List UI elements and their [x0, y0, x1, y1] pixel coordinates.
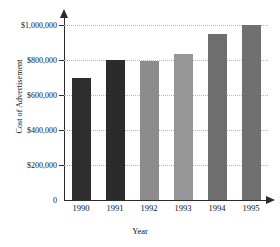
y-axis-tick-label: $1,000,000	[21, 21, 57, 30]
bar-1991	[106, 60, 125, 200]
y-axis-title: Cost of Advertisement	[15, 22, 24, 172]
y-axis-tick	[59, 95, 64, 96]
x-axis-tick-label: 1992	[132, 203, 166, 213]
x-axis-tick-label: 1993	[166, 203, 200, 213]
y-axis-tick-label: $400,000	[27, 126, 57, 135]
gridline	[64, 25, 268, 26]
gridline	[64, 165, 268, 166]
x-axis-title: Year	[0, 226, 280, 236]
bar-1992	[140, 61, 159, 200]
plot-area: 0$200,000$400,000$600,000$800,000$1,000,…	[64, 25, 268, 200]
y-axis-tick-label: $600,000	[27, 91, 57, 100]
gridline	[64, 130, 268, 131]
y-axis-tick	[59, 165, 64, 166]
y-axis-tick-label: $800,000	[27, 56, 57, 65]
x-axis-tick-label: 1995	[234, 203, 268, 213]
bar-chart: Cost of Advertisement 0$200,000$400,000$…	[0, 0, 280, 247]
x-axis-tick-label: 1990	[64, 203, 98, 213]
y-axis-tick-label: $200,000	[27, 161, 57, 170]
bar-1995	[242, 25, 261, 200]
gridline	[64, 200, 268, 201]
x-axis-tick-label: 1994	[200, 203, 234, 213]
bar-1990	[72, 78, 91, 201]
y-axis-tick	[59, 25, 64, 26]
bar-1994	[208, 34, 227, 200]
bar-1993	[174, 54, 193, 200]
y-axis-tick	[59, 130, 64, 131]
gridline	[64, 60, 268, 61]
y-axis-arrowhead	[60, 9, 68, 18]
y-axis-tick-label: 0	[53, 196, 57, 205]
x-axis-tick-label: 1991	[98, 203, 132, 213]
gridline	[64, 95, 268, 96]
y-axis-tick	[59, 60, 64, 61]
